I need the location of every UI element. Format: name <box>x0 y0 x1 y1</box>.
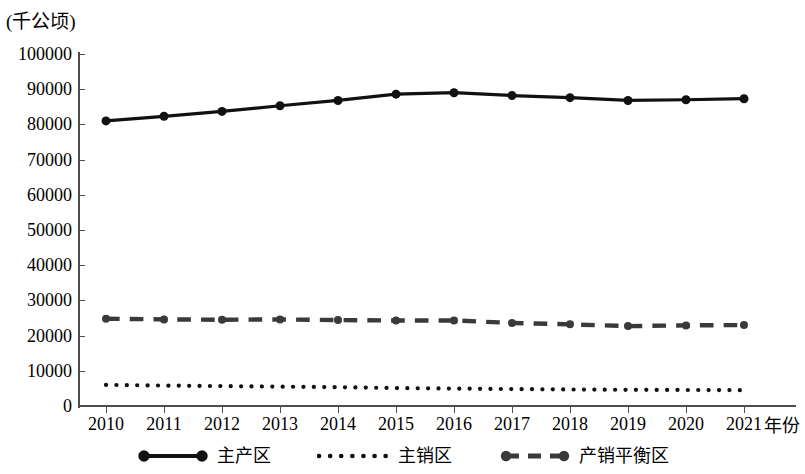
series-data-point <box>624 96 633 105</box>
y-axis-tick-label: 60000 <box>27 186 72 204</box>
x-axis-tick-label: 2020 <box>668 414 704 434</box>
series-data-point <box>276 315 284 323</box>
legend-label: 主销区 <box>398 446 452 466</box>
y-axis-tick-mark <box>78 406 85 407</box>
y-axis-tick-mark <box>78 371 85 372</box>
x-axis-tick-label: 2017 <box>494 414 530 434</box>
series-data-point <box>566 320 574 328</box>
series-data-point <box>218 107 227 116</box>
x-axis-tick-mark <box>222 406 223 413</box>
x-axis-tick-label: 2013 <box>262 414 298 434</box>
x-axis-tick-label: 2015 <box>378 414 414 434</box>
chart-legend: 主产区主销区产销平衡区 <box>0 440 805 472</box>
series-data-point <box>276 101 285 110</box>
legend-item-3[interactable]: 产销平衡区 <box>498 446 669 466</box>
series-data-point <box>740 94 749 103</box>
x-axis-tick-mark <box>512 406 513 413</box>
y-axis-tick-label: 90000 <box>27 80 72 98</box>
y-axis-tick-label: 100000 <box>18 45 72 63</box>
y-axis-tick-label: 0 <box>63 397 72 415</box>
x-axis-tick-mark <box>454 406 455 413</box>
series-data-point <box>450 88 459 97</box>
series-data-point <box>102 116 111 125</box>
legend-label: 主产区 <box>217 446 271 466</box>
series-data-point <box>508 319 516 327</box>
y-axis-unit-caption: (千公顷) <box>6 6 76 33</box>
series-line <box>106 93 744 121</box>
x-axis-tick-label: 2011 <box>146 414 181 434</box>
x-axis-tick-mark <box>628 406 629 413</box>
series-data-point <box>450 316 458 324</box>
chart-page: (千公顷) 0100002000030000400005000060000700… <box>0 0 805 474</box>
series-data-point <box>392 316 400 324</box>
legend-swatch-dotted <box>317 447 391 465</box>
legend-swatch-dashed <box>498 447 572 465</box>
x-axis-tick-mark <box>686 406 687 413</box>
x-axis-tick-label: 2016 <box>436 414 472 434</box>
y-axis-tick-mark <box>78 265 85 266</box>
series-data-point <box>392 90 401 99</box>
series-data-point <box>624 322 632 330</box>
series-data-point <box>218 316 226 324</box>
legend-swatch-solid <box>136 447 210 465</box>
y-axis-tick-mark <box>78 300 85 301</box>
x-axis-tick-label: 2019 <box>610 414 646 434</box>
series-data-point <box>160 112 169 121</box>
y-axis-tick-label: 70000 <box>27 151 72 169</box>
series-data-point <box>160 315 168 323</box>
x-axis-tick-mark <box>338 406 339 413</box>
series-data-point <box>102 315 110 323</box>
x-axis-tick-mark <box>106 406 107 413</box>
legend-item-1[interactable]: 主产区 <box>136 446 271 466</box>
chart-series-3 <box>102 315 748 330</box>
x-axis-tick-label: 2018 <box>552 414 588 434</box>
y-axis-tick-mark <box>78 336 85 337</box>
series-line <box>106 319 744 326</box>
series-data-point <box>682 321 690 329</box>
series-data-point <box>334 96 343 105</box>
x-axis-tick-mark <box>164 406 165 413</box>
y-axis-tick-mark <box>78 160 85 161</box>
x-axis-title: 年份 <box>764 416 800 436</box>
y-axis-tick-label: 20000 <box>27 327 72 345</box>
series-line <box>106 385 744 390</box>
x-axis-tick-mark <box>570 406 571 413</box>
y-axis-tick-label: 80000 <box>27 115 72 133</box>
series-data-point <box>508 91 517 100</box>
legend-item-2[interactable]: 主销区 <box>317 446 452 466</box>
y-axis-tick-label: 40000 <box>27 256 72 274</box>
series-data-point <box>334 316 342 324</box>
series-data-point <box>740 321 748 329</box>
series-data-point <box>682 95 691 104</box>
y-axis-tick-label: 10000 <box>27 362 72 380</box>
y-axis-tick-mark <box>78 89 85 90</box>
y-axis-tick-mark <box>78 230 85 231</box>
chart-series-2 <box>106 385 744 390</box>
x-axis-tick-mark <box>744 406 745 413</box>
chart-series-1 <box>102 88 749 125</box>
series-data-point <box>566 93 575 102</box>
x-axis-tick-label: 2021 <box>726 414 762 434</box>
y-axis-tick-mark <box>78 195 85 196</box>
y-axis-tick-label: 50000 <box>27 221 72 239</box>
legend-label: 产销平衡区 <box>579 446 669 466</box>
y-axis-tick-mark <box>78 54 85 55</box>
x-axis-tick-label: 2012 <box>204 414 240 434</box>
x-axis-tick-mark <box>280 406 281 413</box>
y-axis-tick-label: 30000 <box>27 291 72 309</box>
chart-series-layer <box>0 0 805 474</box>
y-axis-tick-mark <box>78 124 85 125</box>
x-axis-line <box>78 405 796 407</box>
x-axis-tick-mark <box>396 406 397 413</box>
x-axis-tick-label: 2010 <box>88 414 124 434</box>
x-axis-tick-label: 2014 <box>320 414 356 434</box>
